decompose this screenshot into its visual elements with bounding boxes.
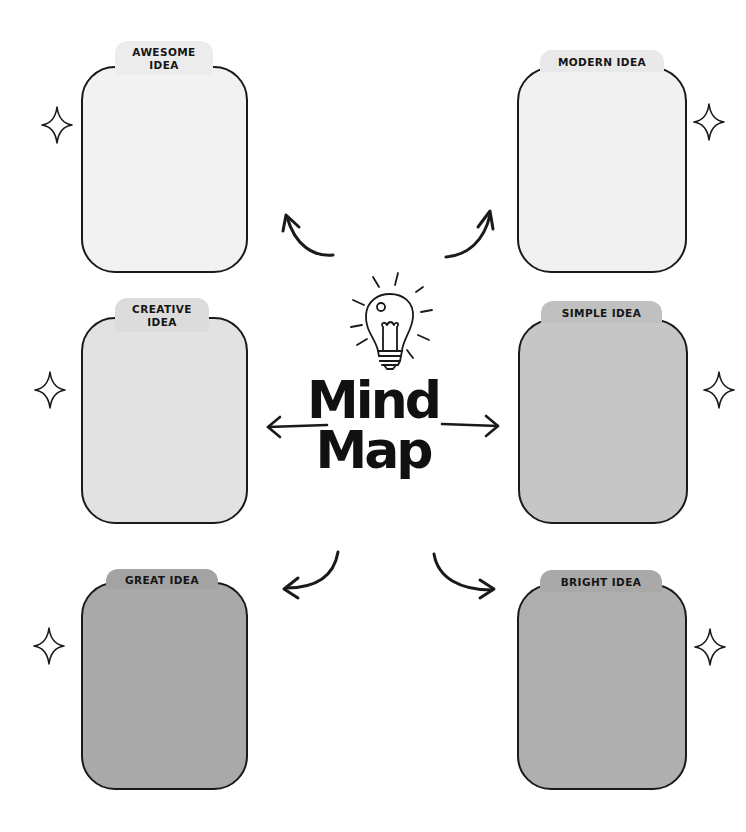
curved-arrow-icon	[275, 205, 345, 265]
idea-label-bright: BRIGHT IDEA	[561, 576, 642, 589]
idea-label-simple: SIMPLE IDEA	[562, 307, 641, 320]
lightbulb-icon	[340, 265, 440, 375]
sparkle-icon	[702, 370, 736, 410]
idea-box-bright	[517, 584, 687, 790]
sparkle-icon	[692, 102, 726, 142]
sparkle-icon	[693, 627, 727, 667]
curved-arrow-icon	[440, 205, 510, 265]
idea-label-awesome-line2: IDEA	[132, 59, 195, 72]
idea-tab-bright: BRIGHT IDEA	[540, 570, 662, 592]
idea-label-creative-line2: IDEA	[132, 316, 192, 329]
idea-box-great	[81, 582, 248, 790]
idea-tab-creative: CREATIVE IDEA	[115, 298, 209, 332]
sparkle-icon	[40, 105, 74, 145]
curved-arrow-icon	[276, 548, 346, 603]
idea-box-modern	[517, 67, 687, 273]
idea-box-awesome	[81, 66, 248, 273]
idea-label-creative-line1: CREATIVE	[132, 303, 192, 316]
sparkle-icon	[32, 626, 66, 666]
sparkle-icon	[33, 370, 67, 410]
idea-box-creative	[81, 317, 248, 524]
idea-label-awesome-line1: AWESOME	[132, 46, 195, 59]
idea-tab-great: GREAT IDEA	[106, 569, 218, 589]
idea-tab-simple: SIMPLE IDEA	[541, 301, 662, 323]
idea-box-simple	[518, 319, 688, 524]
curved-arrow-icon	[430, 550, 502, 605]
idea-label-modern: MODERN IDEA	[558, 56, 646, 69]
idea-label-great: GREAT IDEA	[125, 574, 199, 587]
right-arrow-icon	[438, 412, 508, 442]
left-arrow-icon	[262, 412, 332, 442]
idea-tab-awesome: AWESOME IDEA	[115, 41, 213, 75]
idea-tab-modern: MODERN IDEA	[540, 50, 664, 72]
